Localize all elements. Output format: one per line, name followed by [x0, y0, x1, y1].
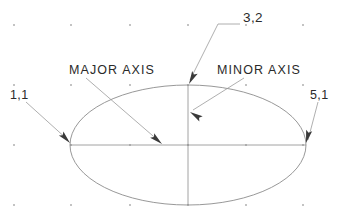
leader-line: [86, 78, 160, 142]
grid-dot: [187, 24, 189, 26]
coordinate-label-left-vertex: 1,1: [10, 89, 29, 102]
arrowhead-icon: [186, 71, 197, 85]
major-axis-label: MAJOR AXIS: [69, 64, 155, 77]
coordinate-label-top-vertex: 3,2: [243, 11, 263, 25]
grid-dot: [302, 24, 304, 26]
arrowhead-icon: [303, 130, 312, 144]
grid-dot: [302, 204, 304, 206]
grid-dot-layer: [13, 24, 304, 206]
leader-line: [26, 102, 68, 140]
grid-dot: [245, 204, 247, 206]
grid-dot: [13, 84, 15, 86]
grid-dot: [129, 204, 131, 206]
grid-dot: [70, 204, 72, 206]
grid-dot: [13, 204, 15, 206]
grid-dot: [13, 144, 15, 146]
leader-line: [193, 78, 244, 110]
leader-point-left[interactable]: [26, 102, 72, 145]
leader-minor-axis[interactable]: [188, 78, 244, 122]
minor-axis-label: MINOR AXIS: [217, 64, 301, 77]
leader-major-axis[interactable]: [86, 78, 164, 146]
arrowhead-icon: [188, 109, 202, 121]
grid-dot: [13, 24, 15, 26]
grid-dot: [129, 24, 131, 26]
grid-dot: [70, 84, 72, 86]
coordinate-label-right-vertex: 5,1: [310, 89, 329, 102]
grid-dot: [245, 84, 247, 86]
grid-dot: [302, 84, 304, 86]
grid-dot: [129, 84, 131, 86]
cad-drawing-canvas[interactable]: MAJOR AXIS MINOR AXIS 3,2 1,1 5,1: [0, 0, 342, 221]
grid-dot: [70, 24, 72, 26]
cad-vector-layer: [0, 0, 342, 221]
